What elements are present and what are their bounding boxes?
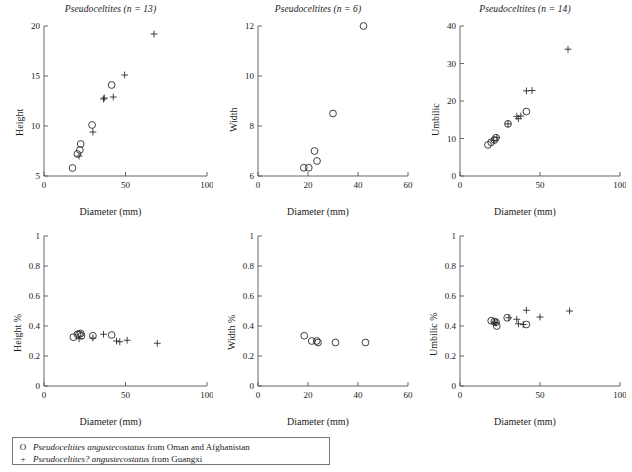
- y-tick-label: 0.6: [243, 291, 255, 301]
- x-tick-label: 100: [200, 180, 213, 190]
- y-axis-label: Width %: [226, 315, 237, 350]
- x-tick-label: 100: [200, 390, 213, 400]
- data-point-circle: [330, 110, 337, 117]
- data-point-circle: [362, 339, 369, 346]
- y-tick-label: 30: [447, 59, 457, 69]
- y-tick-label: 0: [250, 381, 255, 391]
- y-tick-label: 12: [245, 21, 254, 31]
- panel-title-genus: Pseudoceltites: [65, 4, 121, 14]
- y-tick-label: 15: [31, 71, 41, 81]
- scatter-plot-height: 5101520050100: [8, 18, 213, 198]
- data-series: [69, 82, 115, 172]
- y-tick-label: 0.4: [29, 321, 41, 331]
- panel-width-percent-vs-diameter: 00.20.40.60.810204060 Diameter (mm) Widt…: [222, 228, 414, 433]
- data-point-circle: [523, 108, 530, 115]
- y-tick-label: 0.6: [29, 291, 41, 301]
- y-tick-label: 10: [31, 121, 41, 131]
- legend-species-name: Pseudoceltites? angustecostatus: [33, 454, 149, 464]
- panel-height-percent-vs-diameter: 00.20.40.60.81050100 Diameter (mm) Heigh…: [8, 228, 213, 433]
- y-tick-label: 0.2: [29, 351, 40, 361]
- panel-title: Pseudoceltites (n = 14): [424, 4, 626, 14]
- data-point-circle: [314, 158, 321, 165]
- plus-cross-icon: +: [13, 454, 33, 464]
- scatter-plot-height-percent: 00.20.40.60.81050100: [8, 228, 213, 408]
- plot-area: 00.20.40.60.810204060: [222, 228, 414, 408]
- panel-height-vs-diameter: Pseudoceltites (n = 13) 5101520050100 Di…: [8, 4, 213, 222]
- x-tick-label: 20: [304, 180, 314, 190]
- data-series: [485, 108, 530, 148]
- x-tick-label: 50: [536, 180, 546, 190]
- x-axis-label: Diameter (mm): [222, 416, 414, 427]
- x-tick-label: 0: [42, 390, 47, 400]
- y-tick-label: 0.6: [445, 291, 457, 301]
- plot-area: 5101520050100: [8, 18, 213, 198]
- y-tick-label: 0: [452, 381, 457, 391]
- x-axis-label: Diameter (mm): [222, 206, 414, 217]
- y-tick-label: 0.8: [445, 261, 457, 271]
- x-tick-label: 20: [304, 390, 314, 400]
- y-tick-label: 0.2: [445, 351, 456, 361]
- data-point-circle: [311, 148, 318, 155]
- data-point-circle: [332, 339, 339, 346]
- panel-title-n: (n = 6): [334, 4, 362, 14]
- y-tick-label: 0: [452, 171, 457, 181]
- x-tick-label: 50: [121, 180, 131, 190]
- y-axis-label: Umbilic: [430, 103, 441, 136]
- axis-spines: [460, 236, 620, 386]
- axis-spines: [460, 26, 620, 176]
- y-tick-label: 0.8: [29, 261, 41, 271]
- data-point-circle: [315, 339, 322, 346]
- x-tick-label: 0: [256, 390, 261, 400]
- panel-title-n: (n = 14): [538, 4, 571, 14]
- legend-row: + Pseudoceltites? angustecostatus from G…: [13, 452, 329, 465]
- data-point-circle: [301, 332, 308, 339]
- scatter-plot-width: 6810120204060: [222, 18, 414, 198]
- y-tick-label: 0.4: [445, 321, 457, 331]
- panel-umbilic-vs-diameter: Pseudoceltites (n = 14) 010203040050100 …: [424, 4, 626, 222]
- legend-species-name: Pseudoceltites angustecostatus: [33, 442, 145, 452]
- data-series: [300, 23, 367, 172]
- data-series: [301, 332, 369, 346]
- panel-title: Pseudoceltites (n = 6): [222, 4, 414, 14]
- y-tick-label: 1: [452, 231, 457, 241]
- panel-umbilic-percent-vs-diameter: 00.20.40.60.81050100 Diameter (mm) Umbil…: [424, 228, 626, 433]
- data-point-circle: [360, 23, 367, 30]
- x-axis-label: Diameter (mm): [424, 416, 626, 427]
- y-tick-label: 8: [250, 121, 255, 131]
- x-tick-label: 60: [404, 180, 414, 190]
- legend-label: Pseudoceltites? angustecostatus from Gua…: [33, 454, 202, 464]
- panel-width-vs-diameter: Pseudoceltites (n = 6) 6810120204060 Dia…: [222, 4, 414, 222]
- x-tick-label: 0: [458, 390, 463, 400]
- data-series: [491, 307, 573, 328]
- data-series: [76, 331, 161, 347]
- y-tick-label: 1: [36, 231, 41, 241]
- y-axis-label: Height %: [12, 314, 23, 352]
- x-tick-label: 50: [121, 390, 131, 400]
- scatter-plot-umbilic: 010203040050100: [424, 18, 626, 198]
- x-tick-label: 0: [256, 180, 261, 190]
- data-point-circle: [89, 122, 96, 129]
- figure-root: Pseudoceltites (n = 13) 5101520050100 Di…: [0, 0, 632, 472]
- x-tick-label: 0: [42, 180, 47, 190]
- y-tick-label: 20: [31, 21, 41, 31]
- x-axis-label: Diameter (mm): [8, 416, 213, 427]
- panel-title: Pseudoceltites (n = 13): [8, 4, 213, 14]
- plot-area: 010203040050100: [424, 18, 626, 198]
- axis-spines: [44, 26, 207, 176]
- open-circle-icon: O: [13, 442, 33, 452]
- x-tick-label: 0: [458, 180, 463, 190]
- y-tick-label: 10: [447, 134, 457, 144]
- data-series: [76, 31, 158, 160]
- scatter-plot-width-percent: 00.20.40.60.810204060: [222, 228, 414, 408]
- x-axis-label: Diameter (mm): [424, 206, 626, 217]
- scatter-plot-umbilic-percent: 00.20.40.60.81050100: [424, 228, 626, 408]
- y-tick-label: 40: [447, 21, 457, 31]
- data-point-circle: [69, 165, 76, 172]
- y-tick-label: 0: [36, 381, 41, 391]
- x-tick-label: 100: [613, 180, 626, 190]
- y-axis-label: Umbilic %: [428, 312, 439, 356]
- panel-title-genus: Pseudoceltites: [275, 4, 331, 14]
- plot-area: 00.20.40.60.81050100: [8, 228, 213, 408]
- x-tick-label: 40: [354, 180, 364, 190]
- axis-spines: [258, 236, 408, 386]
